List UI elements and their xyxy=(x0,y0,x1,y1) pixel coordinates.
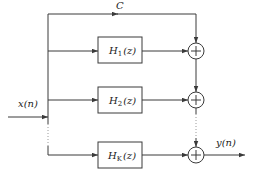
output-label: y(n) xyxy=(215,137,236,148)
output-signal: y(n) xyxy=(204,137,245,155)
adder-chain xyxy=(188,43,204,163)
adder-1 xyxy=(188,43,204,59)
branch-1: H1(z) xyxy=(48,37,188,63)
block-diagram: C x(n) H1(z) H2(z) HK(z) xyxy=(0,0,254,174)
input-label: x(n) xyxy=(18,98,38,109)
direct-path-label: C xyxy=(116,0,124,11)
adder-2 xyxy=(188,92,204,108)
input-signal: x(n) xyxy=(8,98,48,117)
adder-k xyxy=(188,147,204,163)
branch-k: HK(z) xyxy=(48,142,188,168)
branch-2: H2(z) xyxy=(48,87,188,113)
